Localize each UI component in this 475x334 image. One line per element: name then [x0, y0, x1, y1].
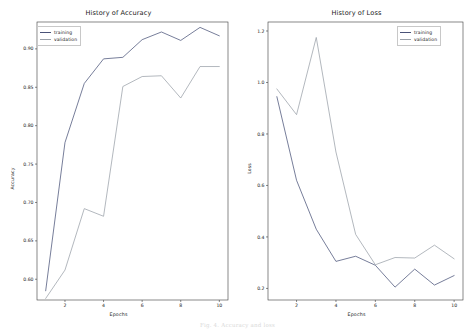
x-axis-label-loss: Epochs [238, 312, 475, 317]
svg-text:0.85: 0.85 [23, 85, 33, 90]
chart-panel-loss: History of Loss 0.20.40.60.81.01.2246810… [238, 0, 475, 320]
legend-loss: training validation [397, 26, 441, 46]
legend-swatch-validation-icon [40, 39, 51, 40]
svg-text:6: 6 [141, 303, 144, 308]
svg-text:1.0: 1.0 [257, 80, 264, 85]
svg-text:0.6: 0.6 [257, 183, 264, 188]
svg-text:0.4: 0.4 [257, 235, 264, 240]
svg-text:0.65: 0.65 [23, 238, 33, 243]
svg-text:0.75: 0.75 [23, 162, 33, 167]
chart-panel-accuracy: History of Accuracy 0.600.650.700.750.80… [0, 0, 237, 320]
svg-text:0.8: 0.8 [257, 132, 264, 137]
legend-item-validation[interactable]: validation [400, 36, 437, 43]
figure-caption: Fig. 4. Accuracy and loss [0, 322, 475, 328]
svg-text:0.60: 0.60 [23, 277, 33, 282]
figure-two-charts: History of Accuracy 0.600.650.700.750.80… [0, 0, 475, 334]
svg-text:0.70: 0.70 [23, 200, 33, 205]
x-axis-label-accuracy: Epochs [0, 312, 237, 317]
svg-text:0.90: 0.90 [23, 46, 33, 51]
y-axis-label-loss: Loss [247, 152, 252, 186]
legend-item-training[interactable]: training [40, 29, 77, 36]
legend-label-training: training [414, 30, 432, 35]
y-axis-label-accuracy: Accuracy [10, 162, 15, 196]
legend-accuracy: training validation [37, 26, 81, 46]
legend-item-validation[interactable]: validation [40, 36, 77, 43]
svg-text:8: 8 [179, 303, 182, 308]
svg-text:4: 4 [334, 303, 337, 308]
legend-label-validation: validation [54, 37, 77, 42]
svg-text:2: 2 [64, 303, 67, 308]
plot-area-accuracy: 0.600.650.700.750.800.850.90246810 [0, 0, 237, 320]
svg-text:8: 8 [413, 303, 416, 308]
plot-area-loss: 0.20.40.60.81.01.2246810 [238, 0, 475, 320]
legend-label-validation: validation [414, 37, 437, 42]
legend-swatch-training-icon [40, 32, 51, 33]
legend-swatch-validation-icon [400, 39, 411, 40]
legend-label-training: training [54, 30, 72, 35]
svg-text:0.2: 0.2 [257, 286, 264, 291]
legend-item-training[interactable]: training [400, 29, 437, 36]
svg-text:10: 10 [216, 303, 222, 308]
svg-text:10: 10 [451, 303, 457, 308]
svg-text:0.80: 0.80 [23, 123, 33, 128]
svg-text:6: 6 [374, 303, 377, 308]
svg-text:2: 2 [295, 303, 298, 308]
svg-text:4: 4 [102, 303, 105, 308]
legend-swatch-training-icon [400, 32, 411, 33]
svg-text:1.2: 1.2 [257, 29, 264, 34]
